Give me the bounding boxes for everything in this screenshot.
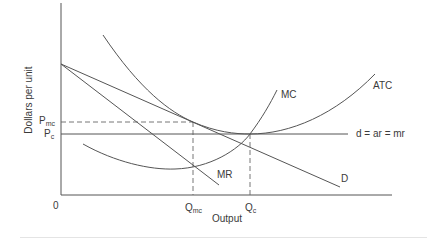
pc-main: P bbox=[44, 128, 51, 139]
qc-sub: c bbox=[253, 207, 257, 214]
pmc-sub: mc bbox=[46, 120, 55, 127]
pc-label: Pc bbox=[44, 129, 54, 140]
demand-curve-label: D bbox=[341, 174, 348, 184]
mc-curve-label: MC bbox=[281, 90, 297, 100]
mc-curve bbox=[83, 90, 277, 169]
pmc-label: Pmc bbox=[39, 116, 55, 127]
atc-curve bbox=[103, 35, 375, 134]
mr-curve-label: MR bbox=[217, 170, 233, 180]
pmc-main: P bbox=[39, 115, 46, 126]
qmc-main: Q bbox=[185, 202, 193, 213]
origin-label: 0 bbox=[53, 201, 59, 211]
qc-label: Qc bbox=[245, 203, 256, 214]
qc-main: Q bbox=[245, 202, 253, 213]
bottom-divider bbox=[20, 237, 427, 238]
x-axis-label: Output bbox=[212, 214, 242, 224]
qmc-sub: mc bbox=[193, 207, 202, 214]
pc-sub: c bbox=[51, 133, 55, 140]
qmc-label: Qmc bbox=[185, 203, 202, 214]
atc-curve-label: ATC bbox=[373, 81, 392, 91]
y-axis-label: Dollars per unit bbox=[23, 66, 34, 133]
d-ar-mr-label: d = ar = mr bbox=[356, 129, 405, 139]
diagram-canvas bbox=[0, 0, 427, 240]
